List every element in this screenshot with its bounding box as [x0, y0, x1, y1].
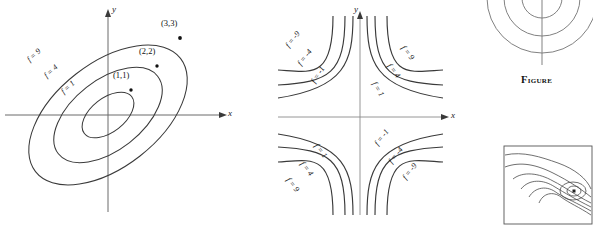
- panel-topographic-contour-map: [503, 145, 593, 225]
- topo-contour-2: [505, 164, 591, 197]
- point-label-2-2: (2,2): [139, 46, 155, 56]
- map-frame: [504, 146, 592, 224]
- x-axis-label: x: [228, 108, 232, 118]
- y-axis-label: y: [354, 4, 358, 14]
- x-axis-arrowhead: [219, 112, 227, 118]
- panel-partial-circular-contours: [480, 0, 570, 80]
- x-axis-label: x: [451, 110, 455, 120]
- point-3-3: [178, 36, 182, 40]
- y-axis-arrowhead: [105, 9, 111, 17]
- circle-contour-outer: [487, 0, 593, 53]
- panel-hyperbolic-contours: x y f = -9 f = -4 f = -1 f = 9 f = 4 f =…: [275, 0, 475, 221]
- hyperbolic-contours-svg: [275, 0, 475, 221]
- y-axis-label: y: [112, 4, 116, 14]
- topographic-map-svg: [503, 145, 593, 225]
- point-1-1: [129, 88, 132, 91]
- topographic-contours: [505, 154, 591, 215]
- panel-elliptic-contours: x y (3,3) (2,2) (1,1) f = 9 f = 4 f = 1: [0, 0, 250, 221]
- hyperbola-ul-f-1: [278, 16, 353, 98]
- point-label-1-1: (1,1): [113, 70, 129, 80]
- hyperbola-lr-f-4: [375, 147, 443, 215]
- circle-contours: [487, 0, 593, 53]
- summit-marker: [573, 190, 576, 193]
- axes-group: [278, 16, 443, 215]
- figure-caption: Figure: [521, 74, 552, 85]
- partial-circles-svg: [480, 0, 570, 80]
- hyperbola-ur-f9: [387, 16, 443, 71]
- contour-hyperbolas: [278, 16, 443, 215]
- point-label-3-3: (3,3): [161, 18, 177, 28]
- marked-points: [129, 36, 182, 92]
- axes-group: [5, 14, 222, 212]
- point-2-2: [155, 64, 158, 67]
- elliptic-contours-svg: [0, 0, 250, 221]
- x-axis-arrowhead: [441, 114, 449, 120]
